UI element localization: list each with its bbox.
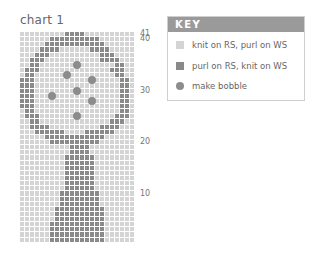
bobble-stitch	[90, 78, 95, 83]
light-square-icon	[176, 41, 184, 49]
key-item-bobble: make bobble	[176, 81, 247, 91]
row-label: 10	[140, 190, 150, 198]
key-item-label: purl on RS, knit on WS	[192, 61, 287, 71]
bobble-stitch	[50, 94, 55, 99]
knitting-chart-grid	[20, 32, 135, 243]
stitch-cell	[130, 238, 135, 243]
key-item-label: make bobble	[192, 81, 247, 91]
row-label: 20	[140, 138, 150, 146]
row-label: 40	[140, 35, 150, 43]
key-item-purl: purl on RS, knit on WS	[176, 61, 287, 71]
key-header: KEY	[168, 17, 304, 32]
key-panel: KEY knit on RS, purl on WS purl on RS, k…	[167, 16, 305, 101]
bobble-stitch	[75, 63, 80, 68]
bobble-stitch	[75, 114, 80, 119]
bobble-stitch	[90, 99, 95, 104]
row-label: 30	[140, 87, 150, 95]
bobble-stitch	[75, 89, 80, 94]
bobble-dot-icon	[176, 82, 184, 90]
key-item-label: knit on RS, purl on WS	[192, 40, 287, 50]
dark-square-icon	[176, 62, 184, 70]
bobble-stitch	[65, 73, 70, 78]
key-item-knit: knit on RS, purl on WS	[176, 40, 287, 50]
chart-title: chart 1	[20, 13, 64, 27]
